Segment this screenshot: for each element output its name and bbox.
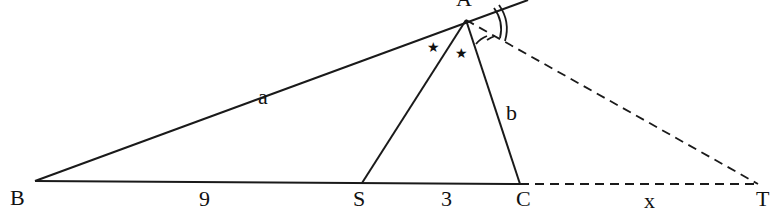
vertex-label-c: C (516, 186, 531, 211)
bisector-as (362, 20, 466, 183)
angle-arc-inner (476, 36, 487, 44)
side-label-b: b (506, 100, 517, 125)
side-label-sc: 3 (441, 186, 452, 211)
vertex-label-s: S (353, 186, 365, 211)
segment-bc (35, 181, 520, 184)
side-ba-extended (35, 0, 528, 181)
angle-star-right: ★ (455, 46, 468, 61)
side-label-ct: x (644, 188, 655, 213)
angle-arc-inner-2 (487, 36, 495, 40)
geometry-diagram: ★ ★ A B S C T a b 9 3 x (0, 0, 776, 223)
vertex-label-t: T (756, 186, 770, 211)
vertex-label-a: A (456, 0, 472, 11)
side-label-bs: 9 (199, 186, 210, 211)
angle-star-left: ★ (427, 40, 440, 55)
side-label-a: a (258, 84, 268, 109)
vertex-label-b: B (10, 185, 25, 210)
